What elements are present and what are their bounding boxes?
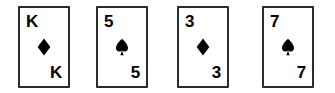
card-rank-top-left: 7: [270, 13, 279, 30]
spade-icon: [281, 38, 295, 56]
card-rank-top-left: 5: [104, 13, 113, 30]
card-rank-bottom-right: 7: [297, 64, 306, 81]
spade-icon: [115, 38, 129, 56]
playing-card[interactable]: K K: [18, 6, 70, 88]
card-rank-top-left: K: [26, 13, 38, 30]
playing-card[interactable]: 3 3: [177, 6, 229, 88]
card-rank-top-left: 3: [185, 13, 194, 30]
playing-card-row: K K 5 5 3 3 7 7: [0, 0, 335, 93]
diamond-icon: [37, 38, 51, 56]
card-rank-bottom-right: K: [50, 64, 62, 81]
diamond-icon: [196, 38, 210, 56]
playing-card[interactable]: 5 5: [96, 6, 148, 88]
playing-card[interactable]: 7 7: [262, 6, 314, 88]
card-rank-bottom-right: 3: [212, 64, 221, 81]
card-rank-bottom-right: 5: [131, 64, 140, 81]
